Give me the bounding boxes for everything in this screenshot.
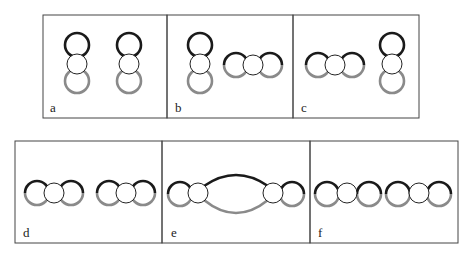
panel-f <box>310 141 458 243</box>
vertical-dimer <box>380 33 404 93</box>
diagram-canvas <box>0 0 473 260</box>
horizontal-dimer <box>306 53 364 77</box>
panel-e <box>162 141 310 243</box>
horizontal-dimer-2 <box>97 181 155 205</box>
panel-label-f: f <box>318 225 322 241</box>
vertical-dimer-1 <box>65 33 89 93</box>
vertical-dimer <box>188 33 212 93</box>
horizontal-dimer <box>224 53 282 77</box>
panel-label-c: c <box>301 100 307 116</box>
bridged-dimers <box>168 175 304 213</box>
panel-label-a: a <box>50 100 56 116</box>
panel-b <box>167 15 293 118</box>
vertical-dimer-2 <box>117 33 141 93</box>
dimer-chain <box>315 182 451 206</box>
horizontal-dimer-1 <box>25 181 83 205</box>
panel-label-b: b <box>175 100 182 116</box>
panel-label-e: e <box>171 225 177 241</box>
panel-a <box>43 15 167 118</box>
panel-c <box>293 15 419 118</box>
panel-label-d: d <box>23 225 30 241</box>
panel-d <box>15 141 162 243</box>
